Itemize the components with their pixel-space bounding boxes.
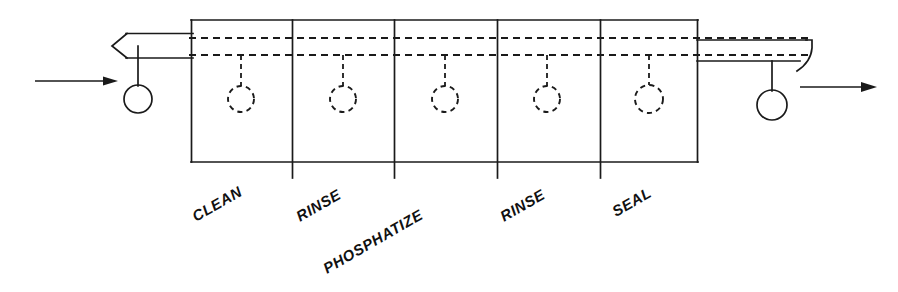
carrier-clean bbox=[228, 55, 254, 112]
inlet-flow-arrow bbox=[35, 77, 118, 86]
conveyor-left-end bbox=[112, 34, 193, 59]
tank-bank-outline bbox=[191, 20, 698, 162]
process-flow-diagram: CLEAN RINSE PHOSPHATIZE RINSE SEAL bbox=[0, 0, 898, 292]
tank-dividers bbox=[293, 20, 601, 178]
stage-label-clean: CLEAN bbox=[189, 182, 245, 224]
diagram-root: CLEAN RINSE PHOSPHATIZE RINSE SEAL bbox=[0, 0, 898, 292]
stage-label-rinse-2: RINSE bbox=[497, 185, 548, 224]
carrier-rinse-2 bbox=[534, 55, 560, 112]
carrier-seal bbox=[635, 55, 663, 113]
stage-labels: CLEAN RINSE PHOSPHATIZE RINSE SEAL bbox=[189, 182, 654, 276]
stage-label-seal: SEAL bbox=[609, 184, 654, 220]
inlet-arrow-head bbox=[103, 77, 118, 86]
carrier-inlet-part bbox=[124, 85, 152, 113]
carrier-rinse-1 bbox=[330, 55, 356, 112]
outlet-flow-arrow bbox=[800, 82, 877, 92]
carrier-rinse-2-part bbox=[534, 86, 560, 112]
carrier-phosphatize bbox=[432, 55, 458, 112]
carrier-outlet-part bbox=[757, 90, 787, 120]
stage-label-rinse-1: RINSE bbox=[293, 185, 344, 224]
stage-label-phosphatize: PHOSPHATIZE bbox=[320, 206, 426, 277]
carrier-seal-part bbox=[635, 85, 663, 113]
carrier-rinse-1-part bbox=[330, 86, 356, 112]
carrier-inlet bbox=[124, 46, 152, 113]
outlet-arrow-head bbox=[861, 82, 877, 92]
carrier-outlet bbox=[757, 61, 787, 120]
conveyor-return-arrowhead bbox=[112, 34, 127, 59]
carrier-phosphatize-part bbox=[432, 86, 458, 112]
carrier-clean-part bbox=[228, 86, 254, 112]
